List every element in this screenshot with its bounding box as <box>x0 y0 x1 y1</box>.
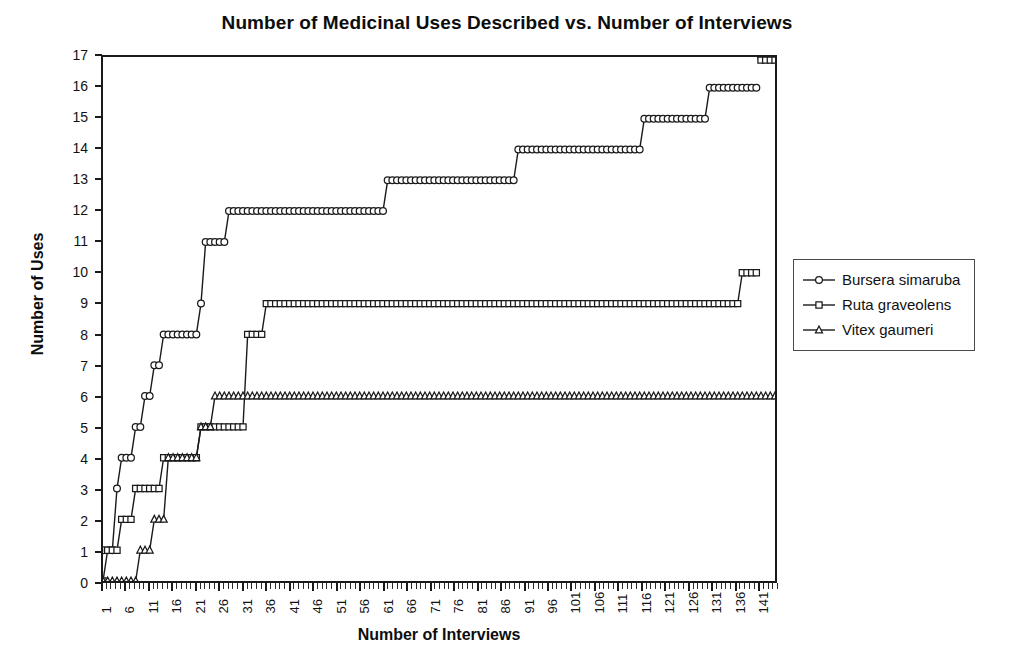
series-vitex-gaumeri <box>103 392 775 581</box>
x-tick-mark <box>190 583 191 589</box>
data-point-marker <box>240 424 246 430</box>
x-tick-mark <box>378 583 379 589</box>
data-point-marker <box>259 331 265 337</box>
chart-legend: Bursera simarubaRuta graveolensVitex gau… <box>793 259 975 351</box>
x-tick-mark <box>162 583 163 589</box>
x-tick-mark <box>256 583 257 589</box>
x-tick-mark <box>603 583 604 589</box>
chart-title: Number of Medicinal Uses Described vs. N… <box>0 12 1014 34</box>
x-tick-mark <box>364 583 365 589</box>
x-tick-mark <box>167 583 168 589</box>
x-tick-mark <box>242 583 244 591</box>
x-tick-mark <box>655 583 656 589</box>
x-tick-mark <box>416 583 417 589</box>
legend-item-label: Bursera simaruba <box>842 271 960 288</box>
x-tick-mark <box>678 583 679 589</box>
x-tick-mark <box>101 583 103 591</box>
x-tick-mark <box>646 583 647 589</box>
x-tick-mark <box>664 583 666 591</box>
y-axis-tick-labels: 01234567891011121314151617 <box>60 55 96 583</box>
plot-area <box>101 55 777 583</box>
x-tick-label: 21 <box>192 599 207 613</box>
x-tick-label: 41 <box>286 599 301 613</box>
x-tick-mark <box>556 583 557 589</box>
legend-item-label: Ruta graveolens <box>842 296 951 313</box>
y-tick-label: 4 <box>80 451 88 467</box>
x-tick-mark <box>589 583 590 589</box>
x-tick-mark <box>613 583 614 589</box>
legend-item-bursera-simaruba[interactable]: Bursera simaruba <box>802 267 966 292</box>
legend-item-ruta-graveolens[interactable]: Ruta graveolens <box>802 292 966 317</box>
x-tick-label: 106 <box>591 592 606 614</box>
x-tick-mark <box>279 583 280 589</box>
x-tick-mark <box>561 583 562 589</box>
x-tick-mark <box>777 583 778 589</box>
x-tick-mark <box>462 583 463 589</box>
x-tick-mark <box>148 583 150 591</box>
x-tick-mark <box>298 583 299 589</box>
y-tick-label: 10 <box>72 264 88 280</box>
x-tick-mark <box>425 583 426 589</box>
x-tick-mark <box>143 583 144 589</box>
x-tick-mark <box>453 583 455 591</box>
x-tick-mark <box>331 583 332 589</box>
x-tick-mark <box>171 583 173 591</box>
x-tick-mark <box>186 583 187 589</box>
series-ruta-graveolens <box>103 57 775 581</box>
x-tick-mark <box>129 583 130 589</box>
y-tick-label: 7 <box>80 358 88 374</box>
y-tick-label: 11 <box>73 233 88 249</box>
x-tick-mark <box>115 583 116 589</box>
x-tick-mark <box>439 583 440 589</box>
x-tick-mark <box>430 583 432 591</box>
y-tick-label: 15 <box>72 109 88 125</box>
x-tick-mark <box>345 583 346 589</box>
data-point-marker <box>753 270 759 276</box>
y-tick-label: 17 <box>72 47 88 63</box>
x-tick-mark <box>110 583 111 589</box>
data-point-marker <box>193 331 200 338</box>
x-tick-mark <box>312 583 314 591</box>
x-tick-mark <box>322 583 323 589</box>
x-tick-mark <box>768 583 769 589</box>
data-point-marker <box>137 424 144 431</box>
x-tick-mark <box>444 583 445 589</box>
x-axis-title: Number of Interviews <box>101 626 777 644</box>
x-tick-mark <box>397 583 398 589</box>
x-tick-mark <box>303 583 304 589</box>
x-tick-mark <box>284 583 285 589</box>
data-point-marker <box>772 57 775 63</box>
x-tick-mark <box>387 583 388 589</box>
x-tick-label: 1 <box>99 606 114 613</box>
x-tick-mark <box>181 583 182 589</box>
x-tick-mark <box>772 583 773 589</box>
x-tick-mark <box>505 583 506 589</box>
data-point-marker <box>636 146 643 153</box>
y-tick-label: 16 <box>72 78 88 94</box>
x-tick-mark <box>599 583 600 589</box>
x-tick-mark <box>486 583 487 589</box>
x-tick-mark <box>754 583 755 589</box>
y-tick-label: 12 <box>72 202 88 218</box>
x-tick-mark <box>566 583 567 589</box>
x-tick-label: 96 <box>544 599 559 613</box>
x-tick-mark <box>420 583 421 589</box>
x-tick-mark <box>355 583 356 589</box>
x-tick-mark <box>458 583 459 589</box>
data-point-marker <box>128 516 134 522</box>
x-tick-label: 11 <box>145 600 160 614</box>
series-line <box>103 88 756 550</box>
x-tick-mark <box>392 583 393 589</box>
x-tick-label: 61 <box>380 599 395 613</box>
legend-item-vitex-gaumeri[interactable]: Vitex gaumeri <box>802 317 966 342</box>
chart-figure: Number of Medicinal Uses Described vs. N… <box>0 0 1014 668</box>
x-tick-mark <box>373 583 374 589</box>
x-tick-mark <box>688 583 690 591</box>
x-tick-mark <box>204 583 205 589</box>
x-tick-mark <box>641 583 643 591</box>
x-tick-mark <box>707 583 708 589</box>
data-point-marker <box>702 115 709 122</box>
x-tick-label: 126 <box>685 592 700 614</box>
data-point-marker <box>156 362 163 369</box>
x-tick-mark <box>289 583 291 591</box>
